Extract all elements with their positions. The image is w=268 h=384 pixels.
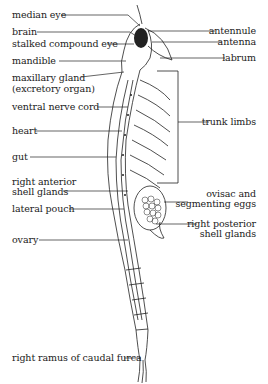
label-stalked-compound-eye: stalked compound eye [12, 39, 118, 49]
label-brain: brain [12, 27, 37, 37]
label-mandible: mandible [12, 56, 56, 66]
antennule-shape [137, 5, 142, 24]
trunk-limbs-bracket [157, 71, 178, 183]
label-antennule: antennule [209, 26, 256, 36]
label-ovary: ovary [12, 235, 38, 245]
label-right-anterior-shell-glands-2: shell glands [12, 187, 68, 197]
label-heart: heart [12, 126, 37, 136]
body-outline-right [125, 70, 148, 360]
label-ovisac-2: segmenting eggs [175, 199, 256, 209]
label-maxillary-gland: maxillary gland [12, 73, 85, 83]
label-gut: gut [12, 152, 28, 162]
label-trunk-limbs: trunk limbs [202, 117, 256, 127]
label-median-eye: median eye [12, 10, 66, 20]
compound-eye-shape [134, 28, 148, 48]
label-ventral-nerve-cord: ventral nerve cord [12, 102, 99, 112]
trunk-limbs-shape [130, 80, 170, 188]
label-antenna: antenna [218, 37, 256, 47]
label-right-ramus-of-caudal-furca: right ramus of caudal furca [12, 353, 141, 363]
label-right-posterior-shell-glands-2: shell glands [200, 229, 256, 239]
label-maxillary-gland-note: (excretory organ) [12, 84, 95, 94]
label-lateral-pouch: lateral pouch [12, 204, 74, 214]
label-labrum: labrum [222, 53, 256, 63]
anatomy-diagram: median eye brain stalked compound eye ma… [0, 0, 268, 384]
